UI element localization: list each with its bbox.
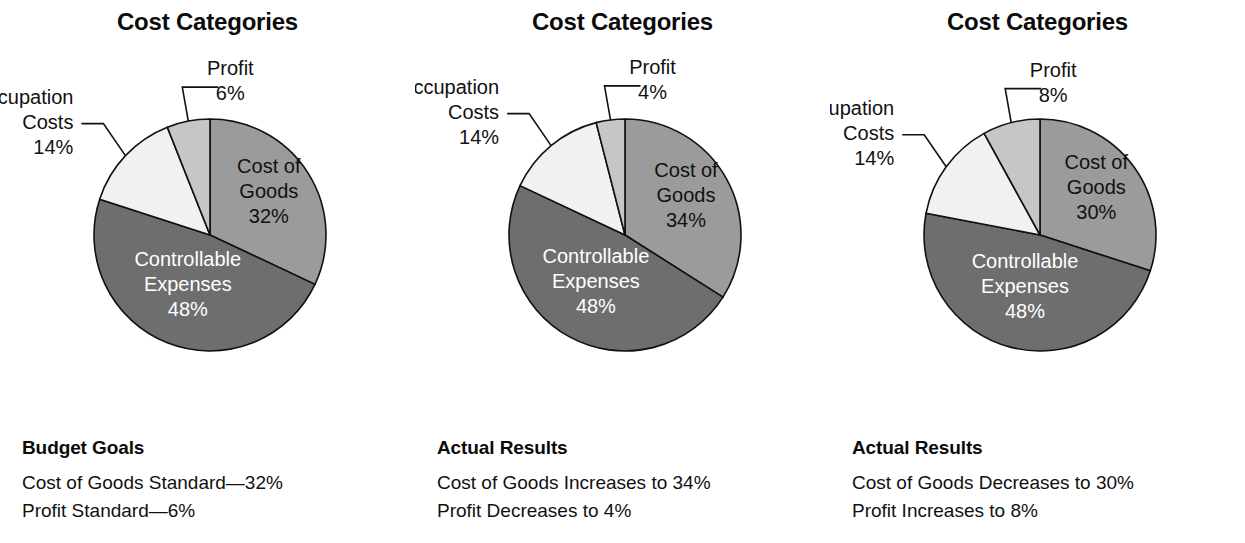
leader-line-profit xyxy=(1005,89,1041,123)
slice-label-cost-of-goods: 32% xyxy=(249,205,289,227)
callout-label-occupation-costs: Occupation xyxy=(415,76,499,98)
caption-line: Cost of Goods Standard—32% xyxy=(22,471,412,495)
callout-value-profit: 6% xyxy=(216,82,245,104)
callout-value-occupation-costs: 14% xyxy=(33,136,73,158)
callout-value-occupation-costs: 14% xyxy=(854,147,894,169)
slice-label-cost-of-goods: 34% xyxy=(666,209,706,231)
pie-chart-figure: Cost Categories Cost ofGoods32%Controlla… xyxy=(0,0,1245,543)
chart-title: Cost Categories xyxy=(415,8,830,36)
leader-line-occupation-costs xyxy=(81,124,125,156)
caption-block-1: Budget Goals Cost of Goods Standard—32% … xyxy=(22,437,412,528)
pie-chart-3: Cost ofGoods30%ControllableExpenses48%Oc… xyxy=(830,45,1245,435)
chart-panel-3: Cost Categories Cost ofGoods30%Controlla… xyxy=(830,0,1245,543)
caption-heading: Actual Results xyxy=(852,437,1242,459)
leader-line-profit xyxy=(605,86,641,120)
slice-label-controllable-expenses: 48% xyxy=(168,298,208,320)
slice-label-cost-of-goods: 30% xyxy=(1076,201,1116,223)
chart-title: Cost Categories xyxy=(830,8,1245,36)
pie-chart-1: Cost ofGoods32%ControllableExpenses48%Oc… xyxy=(0,45,415,435)
slice-label-controllable-expenses: Controllable xyxy=(543,245,650,267)
caption-line: Profit Standard—6% xyxy=(22,499,412,523)
callout-label2-occupation-costs: Costs xyxy=(448,101,499,123)
leader-line-profit xyxy=(182,87,218,121)
slice-label-cost-of-goods: Goods xyxy=(1067,176,1126,198)
slice-label-cost-of-goods: Cost of xyxy=(654,159,718,181)
slice-label-cost-of-goods: Cost of xyxy=(237,155,301,177)
callout-label-profit: Profit xyxy=(1030,59,1077,81)
callout-value-profit: 8% xyxy=(1039,84,1068,106)
pie-svg: Cost ofGoods34%ControllableExpenses48%Oc… xyxy=(415,45,830,435)
chart-title: Cost Categories xyxy=(0,8,415,36)
caption-line: Cost of Goods Decreases to 30% xyxy=(852,471,1242,495)
callout-label-occupation-costs: Occupation xyxy=(830,97,894,119)
caption-line: Cost of Goods Increases to 34% xyxy=(437,471,827,495)
callout-label-profit: Profit xyxy=(207,57,254,79)
caption-line: Profit Decreases to 4% xyxy=(437,499,827,523)
pie-svg: Cost ofGoods30%ControllableExpenses48%Oc… xyxy=(830,45,1245,435)
pie-chart-2: Cost ofGoods34%ControllableExpenses48%Oc… xyxy=(415,45,830,435)
caption-block-2: Actual Results Cost of Goods Increases t… xyxy=(437,437,827,528)
caption-heading: Budget Goals xyxy=(22,437,412,459)
caption-line: Profit Increases to 8% xyxy=(852,499,1242,523)
slice-label-controllable-expenses: 48% xyxy=(576,295,616,317)
pie-svg: Cost ofGoods32%ControllableExpenses48%Oc… xyxy=(0,45,415,435)
callout-value-profit: 4% xyxy=(638,81,667,103)
caption-heading: Actual Results xyxy=(437,437,827,459)
callout-label-occupation-costs: Occupation xyxy=(0,86,73,108)
slice-label-controllable-expenses: Expenses xyxy=(144,273,232,295)
callout-value-occupation-costs: 14% xyxy=(459,126,499,148)
callout-label2-occupation-costs: Costs xyxy=(843,122,894,144)
chart-panel-1: Cost Categories Cost ofGoods32%Controlla… xyxy=(0,0,415,543)
leader-line-occupation-costs xyxy=(902,135,946,167)
caption-block-3: Actual Results Cost of Goods Decreases t… xyxy=(852,437,1242,528)
slice-label-controllable-expenses: 48% xyxy=(1005,300,1045,322)
callout-label2-occupation-costs: Costs xyxy=(22,111,73,133)
chart-panel-2: Cost Categories Cost ofGoods34%Controlla… xyxy=(415,0,830,543)
leader-line-occupation-costs xyxy=(507,114,551,146)
slice-label-cost-of-goods: Goods xyxy=(239,180,298,202)
slice-label-cost-of-goods: Goods xyxy=(657,184,716,206)
slice-label-controllable-expenses: Expenses xyxy=(981,275,1069,297)
slice-label-cost-of-goods: Cost of xyxy=(1065,151,1129,173)
slice-label-controllable-expenses: Controllable xyxy=(134,248,241,270)
callout-label-profit: Profit xyxy=(629,56,676,78)
slice-label-controllable-expenses: Controllable xyxy=(972,250,1079,272)
slice-label-controllable-expenses: Expenses xyxy=(552,270,640,292)
